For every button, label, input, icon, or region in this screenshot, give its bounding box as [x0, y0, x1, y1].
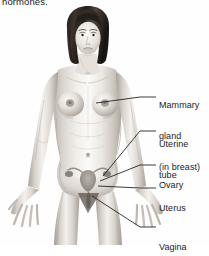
left-arm — [28, 72, 58, 189]
label-vagina: Vagina — [159, 222, 187, 256]
torso — [53, 65, 122, 179]
label-vagina-line-0: Vagina — [159, 242, 187, 252]
label-uterine-tube-line-0: Uterine — [159, 139, 188, 149]
label-uterus-line-0: Uterus — [159, 203, 186, 213]
neck — [74, 54, 101, 75]
label-mammary-gland-line-0: Mammary — [159, 100, 200, 110]
ovary-left — [65, 171, 73, 177]
left-hand — [9, 186, 39, 226]
body-group — [9, 6, 163, 245]
